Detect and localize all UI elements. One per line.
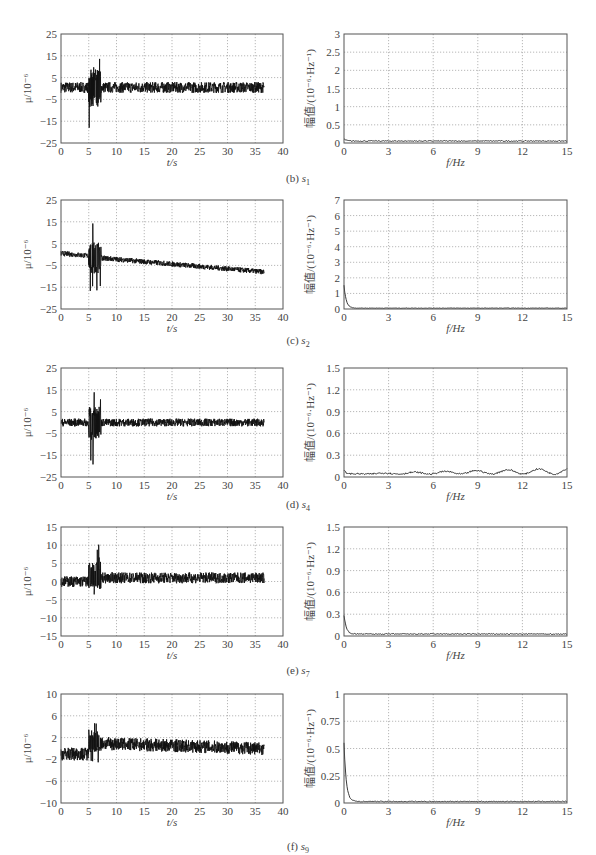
svg-text:−15: −15 [40,630,58,642]
svg-text:5: 5 [335,225,341,237]
svg-text:10: 10 [111,805,123,817]
svg-text:0.5: 0.5 [326,743,340,755]
svg-text:0: 0 [58,479,64,491]
svg-text:15: 15 [562,479,574,491]
svg-text:−5: −5 [45,93,57,105]
caption-d: (d) s4 [0,498,596,513]
svg-text:0: 0 [335,797,341,809]
svg-text:0: 0 [341,311,347,323]
svg-text:35: 35 [250,805,262,817]
svg-text:15: 15 [562,638,574,650]
f-time-chart: 0510152025303540−10−6−22610t/sμ/10⁻⁶ [61,694,283,803]
d-time-chart: 0510152025303540−25−15−551525t/sμ/10⁻⁶ [61,368,283,477]
svg-text:1.5: 1.5 [326,521,340,533]
svg-text:7: 7 [335,194,341,206]
svg-text:35: 35 [250,479,262,491]
svg-text:2: 2 [52,732,58,744]
svg-text:2: 2 [335,64,341,76]
svg-text:15: 15 [562,145,574,157]
svg-text:40: 40 [278,479,290,491]
caption-c: (c) s2 [0,334,596,349]
svg-text:15: 15 [46,384,58,396]
svg-text:0: 0 [335,471,341,483]
svg-text:12: 12 [517,145,528,157]
svg-text:−25: −25 [40,471,58,483]
svg-text:3: 3 [386,311,392,323]
svg-text:−15: −15 [40,115,58,127]
svg-text:15: 15 [562,311,574,323]
svg-text:f/Hz: f/Hz [446,816,465,828]
svg-text:1.2: 1.2 [326,384,340,396]
svg-text:−6: −6 [45,775,57,787]
svg-text:1.5: 1.5 [326,83,340,95]
svg-text:40: 40 [278,805,290,817]
svg-text:5: 5 [52,238,58,250]
svg-text:−5: −5 [45,259,57,271]
svg-text:−15: −15 [40,449,58,461]
svg-text:−10: −10 [40,612,58,624]
svg-text:1: 1 [335,688,341,700]
svg-text:12: 12 [517,479,528,491]
svg-text:t/s: t/s [167,322,177,334]
svg-text:10: 10 [46,688,58,700]
svg-text:9: 9 [475,311,481,323]
svg-text:μ/10⁻⁶: μ/10⁻⁶ [21,408,33,438]
svg-text:f/Hz: f/Hz [446,156,465,168]
svg-text:−5: −5 [45,427,57,439]
svg-text:15: 15 [46,216,58,228]
svg-text:5: 5 [86,805,92,817]
svg-text:6: 6 [430,638,436,650]
svg-text:0.9: 0.9 [326,406,340,418]
svg-text:0.3: 0.3 [326,608,340,620]
svg-text:40: 40 [278,145,290,157]
svg-text:40: 40 [278,311,290,323]
svg-text:1.5: 1.5 [326,362,340,374]
svg-text:3: 3 [386,638,392,650]
caption-b: (b) s1 [0,172,596,187]
svg-text:15: 15 [46,50,58,62]
svg-text:10: 10 [46,539,58,551]
svg-text:0: 0 [335,630,341,642]
svg-text:0: 0 [58,311,64,323]
svg-text:10: 10 [111,479,123,491]
svg-text:9: 9 [475,638,481,650]
svg-text:−5: −5 [45,594,57,606]
svg-text:25: 25 [194,145,206,157]
svg-text:0: 0 [335,303,341,315]
svg-text:f/Hz: f/Hz [446,322,465,334]
e-freq-chart: 0369121500.30.60.91.21.5f/Hz幅值/(10⁻⁶·Hz⁻… [344,527,567,636]
svg-text:25: 25 [194,479,206,491]
svg-text:0.6: 0.6 [326,427,340,439]
svg-text:2.5: 2.5 [326,46,340,58]
svg-text:0: 0 [52,576,58,588]
svg-text:5: 5 [52,406,58,418]
svg-text:0.9: 0.9 [326,565,340,577]
svg-text:0: 0 [341,479,347,491]
svg-text:30: 30 [222,145,234,157]
svg-text:μ/10⁻⁶: μ/10⁻⁶ [21,567,33,597]
svg-text:5: 5 [86,311,92,323]
svg-text:35: 35 [250,638,262,650]
svg-text:t/s: t/s [167,156,177,168]
svg-text:0: 0 [58,638,64,650]
svg-text:0: 0 [58,805,64,817]
svg-text:9: 9 [475,145,481,157]
svg-text:6: 6 [430,479,436,491]
svg-text:30: 30 [222,638,234,650]
svg-text:5: 5 [86,638,92,650]
svg-text:3: 3 [386,145,392,157]
svg-text:幅值/(10⁻⁶·Hz⁻¹): 幅值/(10⁻⁶·Hz⁻¹) [304,215,317,294]
svg-text:幅值/(10⁻⁶·Hz⁻¹): 幅值/(10⁻⁶·Hz⁻¹) [304,383,317,462]
svg-text:6: 6 [335,210,341,222]
svg-text:6: 6 [430,145,436,157]
svg-text:35: 35 [250,311,262,323]
svg-text:μ/10⁻⁶: μ/10⁻⁶ [21,240,33,270]
svg-text:μ/10⁻⁶: μ/10⁻⁶ [21,734,33,764]
svg-text:−25: −25 [40,137,58,149]
svg-text:t/s: t/s [167,649,177,661]
svg-text:35: 35 [250,145,262,157]
svg-text:5: 5 [52,557,58,569]
svg-text:30: 30 [222,805,234,817]
svg-text:3: 3 [386,479,392,491]
caption-f: (f) s9 [0,840,596,855]
